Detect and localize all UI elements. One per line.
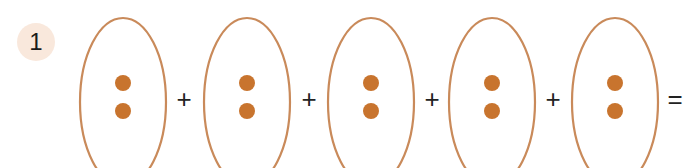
dot <box>239 103 255 119</box>
dot <box>239 75 255 91</box>
plus-operator: + <box>301 86 316 112</box>
group-oval <box>204 18 290 168</box>
group-2 <box>204 18 290 168</box>
group-oval <box>80 18 166 168</box>
dot <box>115 75 131 91</box>
group-5 <box>572 18 658 168</box>
group-4 <box>449 18 535 168</box>
dot <box>484 75 500 91</box>
plus-operator: + <box>424 86 439 112</box>
dot <box>363 103 379 119</box>
plus-operator: + <box>176 86 191 112</box>
equals-operator: = <box>667 86 682 112</box>
group-3 <box>328 18 414 168</box>
dot <box>363 75 379 91</box>
plus-operator: + <box>545 86 560 112</box>
dot-groups-figure <box>0 0 689 168</box>
dot <box>607 103 623 119</box>
group-oval <box>572 18 658 168</box>
group-1 <box>80 18 166 168</box>
dot <box>607 75 623 91</box>
group-oval <box>449 18 535 168</box>
dot <box>115 103 131 119</box>
group-oval <box>328 18 414 168</box>
dot <box>484 103 500 119</box>
